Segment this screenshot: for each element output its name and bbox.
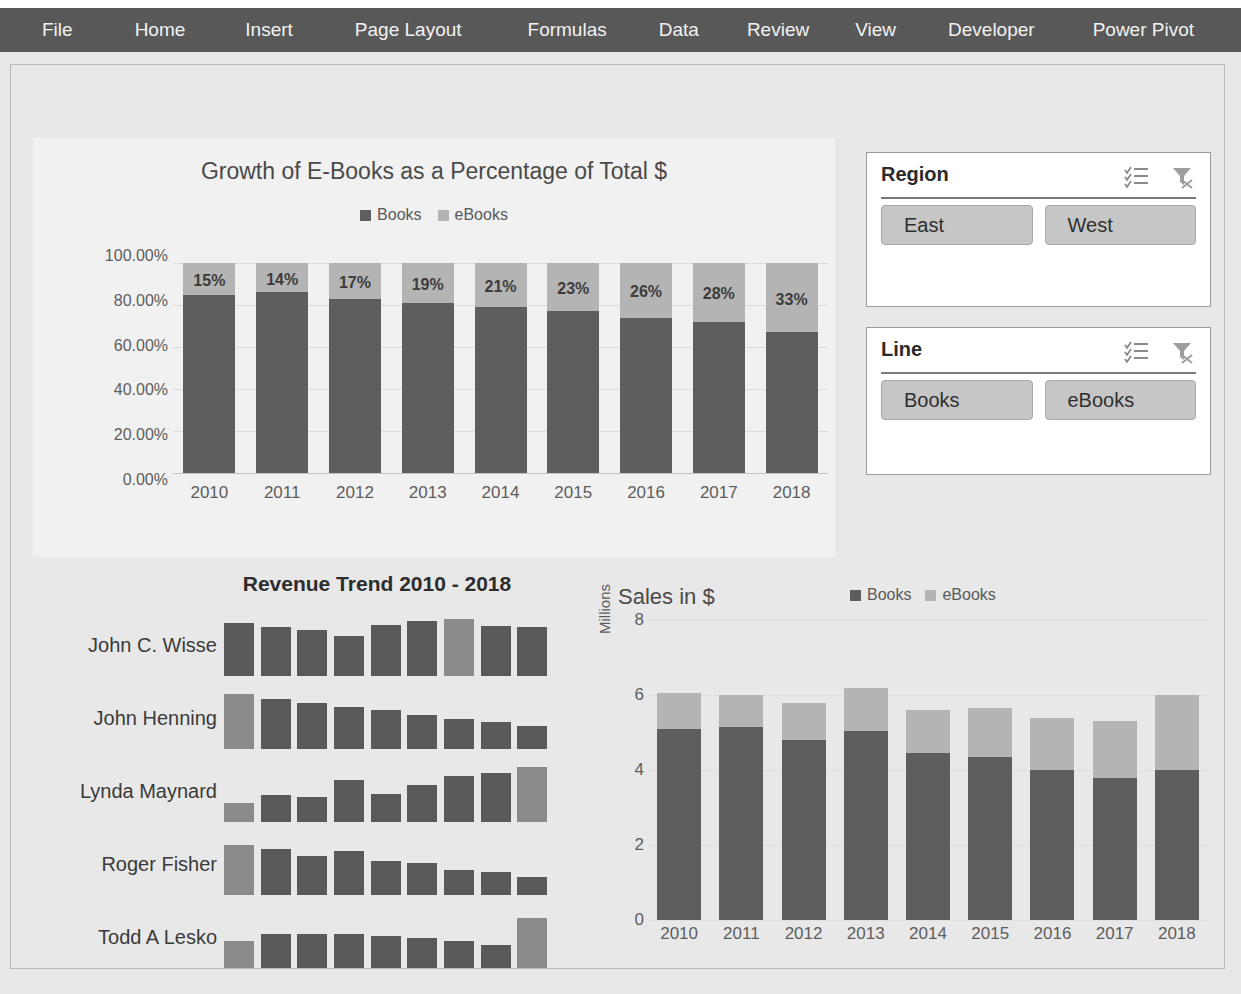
sales-segment-books bbox=[1093, 778, 1137, 921]
chart1-ytick: 80.00% bbox=[114, 292, 168, 310]
sales-chart-legend: BookseBooks bbox=[850, 586, 996, 604]
sparkline-column bbox=[297, 856, 327, 895]
slicer-region-items[interactable]: EastWest bbox=[881, 205, 1196, 245]
ribbon-tab-bar[interactable]: FileHomeInsertPage LayoutFormulasDataRev… bbox=[0, 8, 1241, 52]
ribbon-tab-file[interactable]: File bbox=[42, 19, 73, 41]
sparkline-column bbox=[407, 863, 437, 895]
sparkline-row: John C. Wisse bbox=[22, 614, 567, 676]
sales-bar bbox=[844, 620, 888, 920]
sales-segment-books bbox=[968, 757, 1012, 920]
sparkline-column bbox=[407, 785, 437, 822]
clear-filter-icon[interactable] bbox=[1170, 165, 1196, 193]
slicer-region[interactable]: Region EastWest bbox=[866, 152, 1211, 307]
legend-swatch-books bbox=[850, 590, 861, 601]
chart1-bar: 33% bbox=[766, 263, 818, 473]
clear-filter-icon[interactable] bbox=[1170, 340, 1196, 368]
sales-ytick: 2 bbox=[635, 835, 644, 855]
slicer-item-books[interactable]: Books bbox=[881, 380, 1033, 420]
slicer-item-ebooks[interactable]: eBooks bbox=[1045, 380, 1197, 420]
legend-swatch-ebooks bbox=[438, 210, 449, 221]
chart-sales-in-dollars[interactable]: Sales in $ BookseBooks Millions 02468 20… bbox=[590, 572, 1215, 962]
sales-xtick: 2013 bbox=[838, 924, 894, 944]
legend-swatch-ebooks bbox=[925, 590, 936, 601]
multi-select-icon[interactable] bbox=[1124, 165, 1150, 193]
chart-revenue-trend[interactable]: Revenue Trend 2010 - 2018 John C. WisseJ… bbox=[22, 572, 567, 962]
legend-item-books: Books bbox=[360, 206, 421, 224]
chart1-data-label: 14% bbox=[256, 271, 308, 289]
chart1-segment-books bbox=[183, 295, 235, 474]
chart1-ytick: 40.00% bbox=[114, 381, 168, 399]
sales-ytick: 6 bbox=[635, 685, 644, 705]
chart1-segment-books bbox=[475, 307, 527, 473]
sparkline-column bbox=[371, 861, 401, 895]
sales-xtick: 2014 bbox=[900, 924, 956, 944]
chart1-xtick: 2010 bbox=[178, 483, 240, 503]
slicer-region-icons[interactable] bbox=[1124, 165, 1196, 193]
sparkline-column bbox=[297, 934, 327, 968]
sparkline-column bbox=[371, 625, 401, 676]
sparkline-cells bbox=[224, 833, 554, 895]
ribbon-tab-power-pivot[interactable]: Power Pivot bbox=[1093, 19, 1194, 41]
chart1-segment-books bbox=[402, 303, 454, 473]
sales-bar bbox=[1155, 620, 1199, 920]
chart1-data-label: 26% bbox=[620, 283, 672, 301]
slicer-item-east[interactable]: East bbox=[881, 205, 1033, 245]
sales-segment-books bbox=[1155, 770, 1199, 920]
ribbon-tab-formulas[interactable]: Formulas bbox=[528, 19, 607, 41]
sparkline-column bbox=[334, 851, 364, 895]
chart1-xtick: 2015 bbox=[542, 483, 604, 503]
slicer-line-items[interactable]: BookseBooks bbox=[881, 380, 1196, 420]
sparkline-cells bbox=[224, 687, 554, 749]
ribbon-tab-developer[interactable]: Developer bbox=[948, 19, 1035, 41]
chart1-segment-books bbox=[329, 299, 381, 473]
chart1-xtick: 2011 bbox=[251, 483, 313, 503]
chart1-plot-area: 15%14%17%19%21%23%26%28%33% bbox=[173, 263, 828, 473]
sales-segment-ebooks bbox=[719, 695, 763, 727]
sparkline-row: Lynda Maynard bbox=[22, 760, 567, 822]
sales-segment-ebooks bbox=[906, 710, 950, 753]
sparkline-cells bbox=[224, 760, 554, 822]
sales-gridline bbox=[648, 920, 1208, 921]
chart1-bar: 19% bbox=[402, 263, 454, 473]
sales-chart-title: Sales in $ bbox=[618, 584, 715, 610]
chart1-bar: 26% bbox=[620, 263, 672, 473]
chart1-axis-line bbox=[173, 473, 828, 474]
chart1-xtick: 2016 bbox=[615, 483, 677, 503]
sales-segment-books bbox=[1030, 770, 1074, 920]
sparkline-column bbox=[334, 780, 364, 823]
sparkline-column bbox=[224, 623, 254, 676]
chart1-xtick: 2013 bbox=[397, 483, 459, 503]
slicer-item-west[interactable]: West bbox=[1045, 205, 1197, 245]
chart-growth-of-ebooks[interactable]: Growth of E-Books as a Percentage of Tot… bbox=[33, 138, 835, 557]
ribbon-tab-view[interactable]: View bbox=[855, 19, 896, 41]
chart1-bar: 15% bbox=[183, 263, 235, 473]
sales-xtick: 2011 bbox=[713, 924, 769, 944]
sales-segment-ebooks bbox=[657, 693, 701, 729]
chart1-bar: 17% bbox=[329, 263, 381, 473]
chart1-ytick: 0.00% bbox=[123, 471, 168, 489]
chart1-x-axis: 201020112012201320142015201620172018 bbox=[173, 483, 828, 513]
slicer-line[interactable]: Line BookseBooks bbox=[866, 327, 1211, 475]
sparkline-row: Todd A Lesko bbox=[22, 906, 567, 968]
ribbon-tab-review[interactable]: Review bbox=[747, 19, 809, 41]
sales-xtick: 2016 bbox=[1024, 924, 1080, 944]
ribbon-tab-insert[interactable]: Insert bbox=[245, 19, 293, 41]
sparkline-column bbox=[444, 619, 474, 676]
ribbon-tab-data[interactable]: Data bbox=[659, 19, 699, 41]
ribbon-tab-home[interactable]: Home bbox=[135, 19, 186, 41]
worksheet-canvas: Growth of E-Books as a Percentage of Tot… bbox=[0, 52, 1241, 994]
ribbon-tab-page-layout[interactable]: Page Layout bbox=[355, 19, 462, 41]
sparkline-column bbox=[444, 719, 474, 749]
sales-segment-ebooks bbox=[1030, 718, 1074, 771]
sales-ytick: 0 bbox=[635, 910, 644, 930]
chart1-data-label: 33% bbox=[766, 291, 818, 309]
multi-select-icon[interactable] bbox=[1124, 340, 1150, 368]
slicer-line-title: Line bbox=[881, 338, 922, 361]
sparkline-cells bbox=[224, 906, 554, 968]
chart1-xtick: 2017 bbox=[688, 483, 750, 503]
sales-segment-books bbox=[782, 740, 826, 920]
sales-segment-ebooks bbox=[1093, 721, 1137, 777]
sparkline-column bbox=[261, 795, 291, 822]
sales-segment-ebooks bbox=[968, 708, 1012, 757]
slicer-line-icons[interactable] bbox=[1124, 340, 1196, 368]
